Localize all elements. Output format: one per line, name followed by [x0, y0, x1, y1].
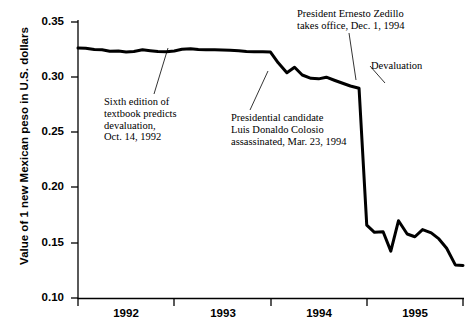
annotation-sixth-edition: Sixth edition of textbook predicts deval…	[104, 96, 177, 143]
y-axis-title: Value of 1 new Mexican peso in U.S. doll…	[18, 21, 30, 271]
annotation-colosio: Presidential candidate Luis Donaldo Colo…	[231, 112, 347, 147]
annotation-leader-lines	[154, 33, 385, 110]
xtick-label-1995: 1995	[385, 307, 445, 319]
annotation-devaluation: Devaluation	[371, 60, 422, 72]
chart-container: 0.35 0.30 0.25 0.20 0.15 0.10 1992 1993 …	[0, 0, 473, 328]
x-tick-marks	[78, 298, 463, 306]
xtick-label-1993: 1993	[193, 307, 253, 319]
annotation-zedillo: President Ernesto Zedillo takes office, …	[297, 8, 404, 32]
ytick-label-010: 0.10	[22, 291, 64, 303]
xtick-label-1992: 1992	[96, 307, 156, 319]
leader-zedillo	[349, 33, 356, 80]
leader-sixth-edition	[154, 48, 168, 94]
data-series-line	[78, 48, 463, 265]
leader-colosio	[250, 71, 268, 110]
xtick-label-1994: 1994	[289, 307, 349, 319]
y-tick-marks	[71, 22, 78, 298]
chart-plot-area	[0, 0, 473, 328]
